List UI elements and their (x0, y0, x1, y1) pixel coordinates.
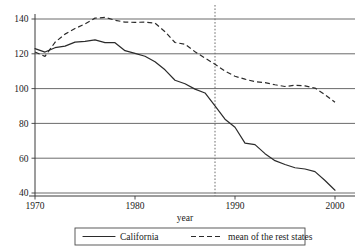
y-tick-label-40: 40 (19, 188, 29, 198)
y-tick-label-140: 140 (14, 14, 29, 24)
series-line-2 (35, 17, 335, 102)
y-tick-label-80: 80 (19, 119, 29, 129)
line-chart: 4060801001201401970198019902000yearCalif… (0, 0, 355, 249)
y-tick-label-120: 120 (14, 49, 29, 59)
y-tick-label-60: 60 (19, 154, 29, 164)
y-tick-label-100: 100 (14, 84, 29, 94)
x-tick-label-1990: 1990 (226, 201, 245, 211)
series-line-1 (35, 40, 335, 190)
x-tick-label-1980: 1980 (126, 201, 145, 211)
x-tick-label-1970: 1970 (26, 201, 45, 211)
chart-figure: 4060801001201401970198019902000yearCalif… (0, 0, 355, 249)
legend-label-1: California (120, 232, 159, 242)
x-axis-title: year (177, 213, 194, 223)
x-tick-label-2000: 2000 (326, 201, 345, 211)
legend-label-2: mean of the rest states (228, 232, 313, 242)
